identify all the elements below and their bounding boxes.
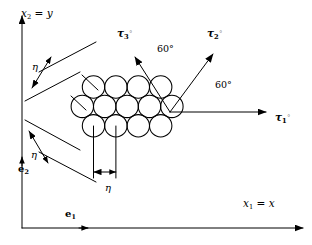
center-mark-mid-left	[71, 96, 86, 110]
eta-upper-left-guide-a	[39, 42, 96, 72]
lattice-circle	[127, 76, 149, 98]
eta-bottom-label: η	[105, 183, 111, 193]
lattice-circle	[127, 115, 149, 137]
lattice-circle	[138, 95, 160, 117]
direction-arrows	[135, 54, 266, 112]
eta-lower-left-label: η	[31, 150, 37, 160]
angle-tau2-tau1: 60°	[215, 80, 232, 90]
direction-label-tau3: τ3◦	[117, 28, 133, 40]
lattice-figure: x1 = xx2 = ye1e2ηηητ1◦τ2◦τ3◦60°60°	[0, 0, 312, 245]
center-mark-top-left	[82, 75, 98, 90]
eta-lower-left-guide-b	[39, 152, 96, 182]
eta-upper-left-label: η	[32, 62, 38, 72]
x-axis-label: x1 = x	[243, 198, 275, 210]
direction-label-tau2: τ2◦	[207, 28, 223, 40]
direction-label-tau1: τ1◦	[275, 112, 291, 124]
lattice-circle	[150, 76, 172, 98]
y-axis-label: x2 = y	[21, 8, 53, 20]
eta-lower-left-guide-a	[25, 120, 80, 150]
lattice-circle	[105, 76, 127, 98]
basis-vector-label-e2: e2	[18, 164, 29, 175]
eta-dimension-lines	[25, 42, 116, 182]
lattice-circle	[116, 95, 138, 117]
basis-vector-label-e1: e1	[65, 209, 76, 220]
angle-tau3-tau2: 60°	[157, 44, 174, 54]
lattice-circle	[82, 76, 104, 98]
lattice-circle	[94, 95, 116, 117]
lattice-circle	[150, 115, 172, 137]
direction-arrow-tau3	[135, 57, 170, 112]
direction-arrow-tau2	[170, 54, 213, 112]
